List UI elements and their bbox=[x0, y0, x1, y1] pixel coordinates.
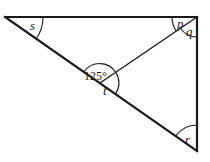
angle-arc-p bbox=[172, 17, 176, 31]
angle-label-t: t bbox=[103, 83, 107, 98]
angle-arc-s bbox=[36, 17, 43, 39]
angle-label-s: s bbox=[30, 18, 35, 33]
angle-label-r: r bbox=[185, 132, 191, 147]
angle-label-125: 125° bbox=[84, 69, 107, 83]
triangle-diagram: s p q 125° t r bbox=[0, 0, 210, 162]
angle-label-q: q bbox=[186, 24, 193, 39]
angle-arc-t bbox=[116, 72, 119, 94]
angle-label-p: p bbox=[176, 16, 184, 31]
